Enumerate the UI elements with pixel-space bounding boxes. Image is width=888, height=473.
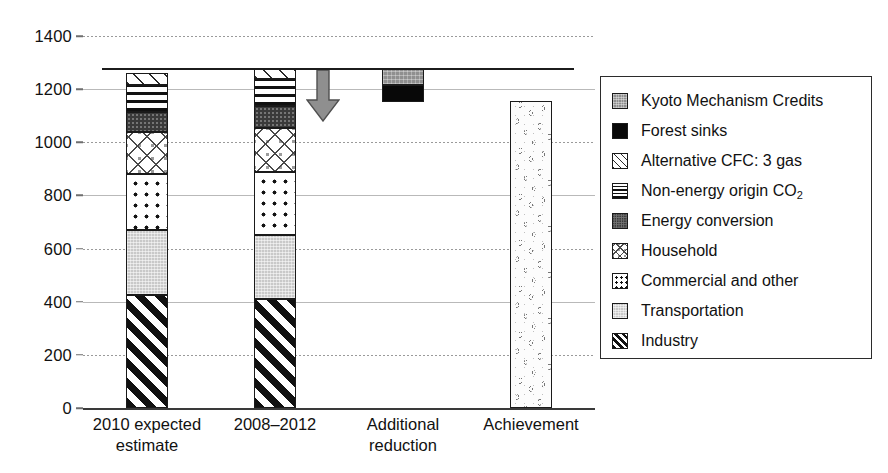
y-tick-mark <box>76 35 83 37</box>
x-axis-label-line: estimate <box>83 435 211 456</box>
legend-item-energyconv[interactable]: Energy conversion <box>601 206 871 236</box>
legend-swatch-household-icon <box>612 243 628 259</box>
legend-label-subscript: 2 <box>797 189 803 201</box>
reduction-arrow-icon <box>306 70 340 122</box>
legend-swatch-commercial-icon <box>612 273 628 289</box>
legend-item-kyoto[interactable]: Kyoto Mechanism Credits <box>601 86 871 116</box>
x-axis-label-line: 2008–2012 <box>211 414 339 435</box>
y-tick-label: 1400 <box>34 27 72 46</box>
y-tick-mark <box>76 195 83 197</box>
bar-1[interactable] <box>126 73 168 408</box>
bar-segment-household[interactable] <box>254 128 296 172</box>
x-axis-label-2: 2008–2012 <box>211 414 339 435</box>
bar-segment-kyoto[interactable] <box>382 69 424 85</box>
bar-segment-transport[interactable] <box>126 230 168 295</box>
bar-segment-commercial[interactable] <box>126 174 168 230</box>
bar-segment-transport[interactable] <box>254 235 296 299</box>
x-axis-label-line: Additional <box>339 414 467 435</box>
bar-segment-household[interactable] <box>126 132 168 175</box>
y-axis: 0200400600800100012001400 <box>0 36 72 408</box>
y-tick-label: 0 <box>63 399 72 418</box>
bar-4[interactable] <box>510 101 552 408</box>
y-tick-mark <box>76 142 83 144</box>
legend-item-label: Household <box>641 242 718 260</box>
legend-swatch-altcfc-icon <box>612 153 628 169</box>
legend-item-label: Industry <box>641 332 698 350</box>
legend-item-nonenergy[interactable]: Non-energy origin CO2 <box>601 176 871 206</box>
legend-item-label: Kyoto Mechanism Credits <box>641 92 823 110</box>
y-tick-label: 1200 <box>34 80 72 99</box>
x-axis-labels: 2010 expectedestimate2008–2012Additional… <box>83 414 595 470</box>
bar-segment-industry[interactable] <box>126 295 168 408</box>
bar-segment-forest[interactable] <box>382 85 424 102</box>
bar-segment-nonenergy[interactable] <box>254 79 296 107</box>
bar-segment-industry[interactable] <box>254 299 296 408</box>
bar-segment-nonenergy[interactable] <box>126 85 168 112</box>
y-tick-label: 400 <box>44 292 72 311</box>
legend-item-industry[interactable]: Industry <box>601 326 871 356</box>
x-axis-label-line: reduction <box>339 435 467 456</box>
legend-item-transport[interactable]: Transportation <box>601 296 871 326</box>
y-tick-mark <box>76 354 83 356</box>
x-axis-label-1: 2010 expectedestimate <box>83 414 211 456</box>
x-axis-label-4: Achievement <box>467 414 595 435</box>
legend-item-commercial[interactable]: Commercial and other <box>601 266 871 296</box>
bar-segment-altcfc[interactable] <box>254 69 296 78</box>
bar-segment-energyconv[interactable] <box>126 112 168 132</box>
y-tick-mark <box>76 301 83 303</box>
bar-segment-altcfc[interactable] <box>126 73 168 85</box>
y-tick-mark <box>76 248 83 250</box>
legend-swatch-kyoto-icon <box>612 93 628 109</box>
plot-area <box>83 36 595 408</box>
y-tick-label: 600 <box>44 239 72 258</box>
legend-item-label: Forest sinks <box>641 122 727 140</box>
legend-swatch-industry-icon <box>612 333 628 349</box>
bar-segment-commercial[interactable] <box>254 172 296 236</box>
x-axis-label-3: Additionalreduction <box>339 414 467 456</box>
bar-3[interactable] <box>382 69 424 408</box>
legend-swatch-transport-icon <box>612 303 628 319</box>
bar-segment-energyconv[interactable] <box>254 106 296 127</box>
legend-item-label: Transportation <box>641 302 744 320</box>
chart-legend: Kyoto Mechanism CreditsForest sinksAlter… <box>600 76 872 359</box>
legend-item-forest[interactable]: Forest sinks <box>601 116 871 146</box>
legend-item-altcfc[interactable]: Alternative CFC: 3 gas <box>601 146 871 176</box>
legend-item-household[interactable]: Household <box>601 236 871 266</box>
legend-item-label: Alternative CFC: 3 gas <box>641 152 802 170</box>
bar-2[interactable] <box>254 69 296 408</box>
legend-item-label: Energy conversion <box>641 212 774 230</box>
legend-swatch-nonenergy-icon <box>612 183 628 199</box>
gridline <box>83 36 595 37</box>
y-tick-mark <box>76 88 83 90</box>
legend-swatch-forest-icon <box>612 123 628 139</box>
y-tick-label: 800 <box>44 186 72 205</box>
x-axis-label-line: Achievement <box>467 414 595 435</box>
y-tick-label: 200 <box>44 345 72 364</box>
y-tick-label: 1000 <box>34 133 72 152</box>
stacked-bar-chart: 0200400600800100012001400 2010 expectede… <box>0 0 888 473</box>
bar-segment-achievement[interactable] <box>510 101 552 408</box>
x-axis-line <box>83 408 595 410</box>
legend-item-label: Commercial and other <box>641 272 798 290</box>
x-axis-label-line: 2010 expected <box>83 414 211 435</box>
legend-item-label: Non-energy origin CO2 <box>641 182 803 201</box>
legend-swatch-energyconv-icon <box>612 213 628 229</box>
y-tick-mark <box>76 407 83 409</box>
